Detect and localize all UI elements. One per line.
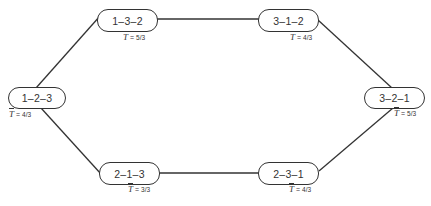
t-bar-symbol: T <box>394 108 399 118</box>
t-label-1-3-2: T = 5/3 <box>123 32 145 42</box>
t-bar-symbol: T <box>128 184 133 194</box>
t-bar-symbol: T <box>123 32 128 42</box>
t-bar-symbol: T <box>290 32 295 42</box>
t-equals: = <box>130 34 134 41</box>
node-label: 2–3–1 <box>273 168 304 180</box>
node-2-1-3: 2–1–3 <box>99 162 160 185</box>
t-value: 5/3 <box>407 110 416 117</box>
t-bar-symbol: T <box>289 184 294 194</box>
t-value: 4/3 <box>302 186 311 193</box>
edge-312-321 <box>318 20 392 88</box>
t-value: 4/3 <box>22 111 31 118</box>
t-label-1-2-3: T = 4/3 <box>9 109 31 119</box>
t-value: 5/3 <box>136 34 145 41</box>
node-label: 3–2–1 <box>379 92 410 104</box>
node-label: 2–1–3 <box>114 168 145 180</box>
t-label-2-1-3: T = 3/3 <box>128 184 150 194</box>
t-bar-symbol: T <box>9 109 14 119</box>
t-value: 3/3 <box>141 186 150 193</box>
t-label-3-2-1: T = 5/3 <box>394 108 416 118</box>
edge-231-321 <box>319 108 393 171</box>
t-equals: = <box>296 186 300 193</box>
t-equals: = <box>16 111 20 118</box>
permutation-diagram: 1–2–3 T = 4/3 1–3–2 T = 5/3 3–1–2 T = 4/… <box>0 0 431 206</box>
node-label: 3–1–2 <box>273 15 304 27</box>
t-label-2-3-1: T = 4/3 <box>289 184 311 194</box>
node-3-1-2: 3–1–2 <box>258 9 319 32</box>
edge-123-213 <box>41 108 101 174</box>
node-3-2-1: 3–2–1 <box>364 87 425 109</box>
node-label: 1–3–2 <box>112 15 143 27</box>
t-equals: = <box>401 110 405 117</box>
t-value: 4/3 <box>303 34 312 41</box>
t-equals: = <box>135 186 139 193</box>
t-equals: = <box>297 34 301 41</box>
node-1-2-3: 1–2–3 <box>8 87 66 109</box>
node-1-3-2: 1–3–2 <box>97 9 158 32</box>
node-label: 1–2–3 <box>22 92 53 104</box>
node-2-3-1: 2–3–1 <box>258 162 319 185</box>
edge-123-132 <box>36 16 100 88</box>
t-label-3-1-2: T = 4/3 <box>290 32 312 42</box>
